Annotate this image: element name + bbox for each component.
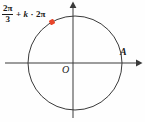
y-axis (70, 2, 77, 119)
multiplication-dot-icon: · (31, 10, 34, 19)
terminal-point-marker (49, 19, 56, 26)
origin-label: O (62, 65, 69, 75)
period-two-pi: 2π (36, 10, 45, 19)
x-axis-arrow-icon (136, 60, 143, 67)
plus-operator: + (16, 10, 21, 19)
unit-circle-diagram: 2π 3 + k · 2π A O (0, 0, 145, 122)
coefficient-k: k (24, 10, 29, 19)
angle-expression-label: 2π 3 + k · 2π (2, 4, 46, 24)
point-a-label: A (120, 47, 127, 57)
fraction-numerator: 2π (2, 4, 13, 14)
fraction-denominator: 3 (4, 15, 11, 25)
y-axis-arrow-icon (70, 2, 77, 9)
fraction-two-pi-over-three: 2π 3 (2, 4, 13, 24)
